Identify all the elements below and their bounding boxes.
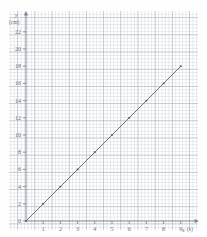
data-point [111,134,113,136]
x-tick-label: 6 [123,226,135,232]
data-point [128,117,130,119]
y-tick-label: 4 [8,184,21,190]
data-point [59,186,61,188]
y-axis-arrow-icon [24,11,28,15]
y-tick-label: 16 [8,80,21,86]
y-tick-label: 8 [8,149,21,155]
x-tick-label: 3 [72,226,84,232]
x-axis-title-unit: (s) [187,227,193,233]
data-point [163,82,165,84]
x-axis-arrow-icon [195,219,199,223]
plot-svg [0,0,207,237]
data-point [145,100,147,102]
data-point [25,220,27,222]
y-axis-title-unit: (cm) [9,20,19,26]
data-point [77,168,79,170]
x-tick-label: 4 [89,226,101,232]
y-tick-label: 14 [8,98,21,104]
y-tick-label: 18 [8,63,21,69]
x-tick-label: 5 [106,226,118,232]
data-line [26,66,181,221]
y-tick-label: 12 [8,115,21,121]
x-tick-label: 2 [54,226,66,232]
x-tick-label: 8 [158,226,170,232]
y-tick-label: 6 [8,166,21,172]
y-tick-label: 22 [8,29,21,35]
y-tick-label: 2 [8,201,21,207]
data-point [94,151,96,153]
x-tick-label: 9 [175,226,187,232]
y-tick-label: 20 [8,46,21,52]
data-point [180,65,182,67]
data-point [42,203,44,205]
y-tick-label: 10 [8,132,21,138]
y-axis-title-symbol: y [15,12,18,18]
graph-screenshot: y (cm) x (s) 0 2 4 6 8 10 12 14 16 18 20… [0,0,207,237]
x-tick-label: 1 [37,226,49,232]
x-tick-label: 7 [140,226,152,232]
y-tick-label: 0 [8,218,21,224]
